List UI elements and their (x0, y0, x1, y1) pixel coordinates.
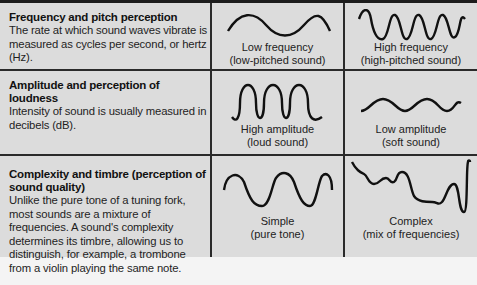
example-cell-high-frequency: High frequency (high-pitched sound) (343, 3, 477, 69)
complex-wave-icon (345, 158, 477, 214)
example-cell-complex: Complex (mix of frequencies) (343, 156, 477, 257)
high-frequency-wave-icon (345, 9, 477, 43)
row-description: The rate at which sound waves vibrate is… (9, 24, 210, 65)
table-row-frequency: Frequency and pitch perception The rate … (0, 3, 477, 71)
example-cell-low-amplitude: Low amplitude (soft sound) (343, 71, 477, 154)
example-cell-low-frequency: Low frequency (low-pitched sound) (210, 3, 343, 69)
description-cell: Complexity and timbre (perception of sou… (0, 156, 210, 257)
table-row-amplitude: Amplitude and perception of loudness Int… (0, 71, 477, 156)
row-description: Intensity of sound is usually measured i… (9, 105, 210, 132)
example-caption: Low amplitude (soft sound) (345, 123, 477, 149)
low-frequency-wave-icon (212, 9, 343, 41)
table-row-complexity: Complexity and timbre (perception of sou… (0, 156, 477, 257)
high-amplitude-wave-icon (212, 79, 343, 123)
row-description: Unlike the pure tone of a tuning fork, m… (9, 194, 210, 275)
example-cell-high-amplitude: High amplitude (loud sound) (210, 71, 343, 154)
row-title: Amplitude and perception of loudness (9, 79, 210, 105)
example-caption: High frequency (high-pitched sound) (345, 41, 477, 67)
row-title: Complexity and timbre (perception of sou… (9, 168, 210, 194)
row-title: Frequency and pitch perception (9, 11, 210, 24)
example-caption: Complex (mix of frequencies) (345, 215, 477, 241)
low-amplitude-wave-icon (345, 79, 477, 123)
example-caption: Low frequency (low-pitched sound) (212, 41, 343, 67)
description-cell: Amplitude and perception of loudness Int… (0, 71, 210, 154)
simple-wave-icon (212, 164, 343, 212)
sound-properties-table: Frequency and pitch perception The rate … (0, 0, 477, 257)
example-caption: High amplitude (loud sound) (212, 123, 343, 149)
example-cell-simple: Simple (pure tone) (210, 156, 343, 257)
description-cell: Frequency and pitch perception The rate … (0, 3, 210, 69)
example-caption: Simple (pure tone) (212, 215, 343, 241)
